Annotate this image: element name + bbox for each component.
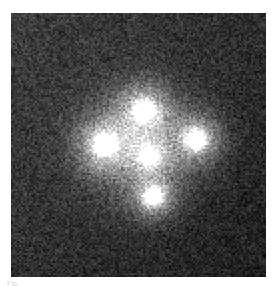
page-canvas: Fig. — [0, 0, 278, 286]
figure-caption-fragment: Fig. — [7, 279, 127, 286]
astronomical-image-plate — [11, 13, 266, 277]
astronomical-image-render — [11, 13, 266, 277]
